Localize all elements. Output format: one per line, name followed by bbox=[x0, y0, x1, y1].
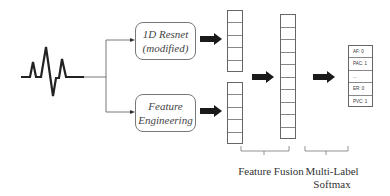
output-row-pac: PAC: 1 bbox=[349, 58, 372, 70]
resnet-label-line2: (modified) bbox=[143, 41, 189, 55]
fusion-brace bbox=[241, 146, 289, 155]
feature-fusion-label: Feature Fusion bbox=[232, 165, 310, 178]
ecg-waveform-icon bbox=[21, 47, 84, 96]
branch-connector bbox=[84, 40, 132, 112]
right-arrow-icon bbox=[313, 71, 335, 83]
feature-engineering-label-line2: Engineering bbox=[138, 113, 192, 127]
vector-cell bbox=[281, 90, 295, 103]
output-row-af: AF: 0 bbox=[349, 46, 372, 58]
output-row-ellipsis: ... bbox=[349, 71, 372, 83]
softmax-label-line2: Softmax bbox=[302, 178, 362, 191]
right-arrow-icon bbox=[200, 33, 222, 45]
feature-engineering-block: Feature Engineering bbox=[135, 94, 196, 132]
softmax-output-table: AF: 0 PAC: 1 ... ER: 0 PVC: 1 bbox=[348, 45, 373, 107]
vector-cell bbox=[228, 120, 242, 132]
resnet-label-line1: 1D Resnet bbox=[143, 27, 189, 41]
softmax-label-line1: Multi-Label bbox=[302, 165, 362, 178]
vector-cell bbox=[228, 36, 242, 48]
vector-cell bbox=[281, 128, 295, 141]
engineered-feature-vector bbox=[227, 82, 243, 144]
multi-label-softmax-label: Multi-Label Softmax bbox=[302, 165, 362, 191]
output-row-er: ER: 0 bbox=[349, 83, 372, 95]
vector-cell bbox=[228, 61, 242, 73]
output-row-pvc: PVC: 1 bbox=[349, 96, 372, 108]
vector-cell bbox=[281, 103, 295, 116]
vector-cell bbox=[281, 40, 295, 53]
resnet-block: 1D Resnet (modified) bbox=[135, 22, 196, 60]
right-arrow-icon bbox=[200, 105, 222, 117]
vector-cell bbox=[228, 23, 242, 35]
feature-engineering-label-line1: Feature bbox=[148, 99, 182, 113]
softmax-brace bbox=[305, 146, 348, 155]
vector-cell bbox=[281, 28, 295, 41]
right-arrow-icon bbox=[252, 71, 274, 83]
vector-cell bbox=[281, 115, 295, 128]
vector-cell bbox=[228, 83, 242, 95]
resnet-feature-vector bbox=[227, 10, 243, 72]
vector-cell bbox=[281, 65, 295, 78]
vector-cell bbox=[281, 78, 295, 91]
vector-cell bbox=[228, 48, 242, 60]
vector-cell bbox=[228, 133, 242, 145]
fused-feature-vector bbox=[280, 14, 296, 139]
vector-cell bbox=[228, 11, 242, 23]
vector-cell bbox=[281, 15, 295, 28]
vector-cell bbox=[228, 95, 242, 107]
vector-cell bbox=[228, 108, 242, 120]
vector-cell bbox=[281, 53, 295, 66]
